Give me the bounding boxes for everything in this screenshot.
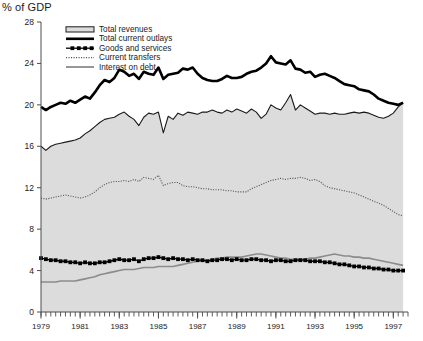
goods-and-services-marker: [191, 257, 195, 261]
goods-and-services-marker: [176, 257, 180, 261]
goods-and-services-marker: [401, 269, 405, 273]
goods-and-services-marker: [108, 259, 112, 263]
goods-and-services-marker: [269, 259, 273, 263]
goods-and-services-marker: [201, 258, 205, 262]
x-tick-label: 1993: [306, 322, 324, 331]
x-tick-label: 1989: [228, 322, 246, 331]
goods-and-services-marker: [303, 258, 307, 262]
goods-and-services-marker: [347, 263, 351, 267]
legend-swatch-total-revenues: [66, 27, 94, 32]
goods-and-services-marker: [328, 260, 332, 264]
goods-and-services-marker: [298, 258, 302, 262]
legend-label: Interest on debt: [99, 63, 157, 72]
goods-and-services-marker: [225, 257, 229, 261]
goods-and-services-marker: [210, 258, 214, 262]
goods-and-services-marker: [342, 262, 346, 266]
goods-and-services-marker: [157, 255, 161, 259]
goods-and-services-marker: [137, 259, 141, 263]
legend-swatch-marker: [77, 46, 81, 50]
x-tick-label: 1995: [345, 322, 363, 331]
y-tick-label: 24: [25, 58, 35, 68]
goods-and-services-marker: [83, 260, 87, 264]
x-tick-label: 1979: [32, 322, 50, 331]
goods-and-services-marker: [103, 260, 107, 264]
y-tick-label: 28: [25, 17, 35, 27]
goods-and-services-marker: [132, 257, 136, 261]
goods-and-services-marker: [396, 269, 400, 273]
chart-canvas: 0481216202428197919811983198519871989199…: [0, 0, 423, 341]
goods-and-services-marker: [220, 257, 224, 261]
legend-swatch-marker: [71, 46, 75, 50]
legend-swatch-marker: [83, 46, 87, 50]
goods-and-services-marker: [323, 260, 327, 264]
goods-and-services-marker: [122, 258, 126, 262]
goods-and-services-marker: [152, 256, 156, 260]
x-tick-label: 1997: [384, 322, 402, 331]
goods-and-services-marker: [245, 258, 249, 262]
goods-and-services-marker: [338, 262, 342, 266]
goods-and-services-marker: [98, 260, 102, 264]
goods-and-services-marker: [352, 265, 356, 269]
legend-label: Total current outlays: [99, 34, 172, 43]
goods-and-services-marker: [113, 258, 117, 262]
x-tick-label: 1991: [267, 322, 285, 331]
goods-and-services-marker: [240, 258, 244, 262]
goods-and-services-marker: [289, 259, 293, 263]
goods-and-services-marker: [205, 259, 209, 263]
goods-and-services-marker: [88, 261, 92, 265]
goods-and-services-marker: [318, 259, 322, 263]
goods-and-services-marker: [294, 258, 298, 262]
goods-and-services-marker: [64, 259, 68, 263]
goods-and-services-marker: [78, 261, 82, 265]
goods-and-services-marker: [117, 257, 121, 261]
goods-and-services-marker: [284, 259, 288, 263]
goods-and-services-marker: [161, 256, 165, 260]
goods-and-services-marker: [279, 258, 283, 262]
goods-and-services-marker: [250, 257, 254, 261]
goods-and-services-marker: [171, 256, 175, 260]
x-tick-label: 1987: [189, 322, 207, 331]
goods-and-services-marker: [215, 258, 219, 262]
goods-and-services-marker: [387, 268, 391, 272]
goods-and-services-marker: [372, 267, 376, 271]
goods-and-services-marker: [254, 257, 258, 261]
goods-and-services-marker: [274, 258, 278, 262]
goods-and-services-marker: [166, 257, 170, 261]
goods-and-services-marker: [391, 269, 395, 273]
goods-and-services-marker: [181, 257, 185, 261]
goods-and-services-marker: [73, 260, 77, 264]
y-tick-label: 8: [29, 224, 34, 234]
legend-swatch-marker: [90, 46, 94, 50]
goods-and-services-marker: [147, 256, 151, 260]
goods-and-services-marker: [264, 258, 268, 262]
goods-and-services-marker: [377, 267, 381, 271]
y-axis-title: % of GDP: [2, 1, 52, 13]
goods-and-services-marker: [44, 257, 48, 261]
goods-and-services-marker: [362, 266, 366, 270]
y-tick-label: 0: [29, 307, 34, 317]
goods-and-services-marker: [308, 259, 312, 263]
y-tick-label: 12: [25, 183, 35, 193]
goods-and-services-marker: [235, 257, 239, 261]
goods-and-services-marker: [54, 258, 58, 262]
x-tick-label: 1983: [110, 322, 128, 331]
goods-and-services-marker: [186, 258, 190, 262]
goods-and-services-marker: [59, 259, 63, 263]
goods-and-services-marker: [49, 258, 53, 262]
legend-label: Total revenues: [99, 25, 152, 34]
y-tick-label: 16: [25, 141, 35, 151]
goods-and-services-marker: [142, 257, 146, 261]
x-tick-label: 1985: [150, 322, 168, 331]
revenues-area-fill: [41, 95, 403, 313]
goods-and-services-marker: [357, 265, 361, 269]
goods-and-services-marker: [313, 259, 317, 263]
legend-label: Current transfers: [99, 53, 160, 62]
chart-figure: % of GDP 0481216202428197919811983198519…: [0, 0, 423, 341]
goods-and-services-marker: [382, 268, 386, 272]
y-tick-label: 4: [29, 266, 34, 276]
y-tick-label: 20: [25, 100, 35, 110]
legend-label: Goods and services: [99, 44, 171, 53]
goods-and-services-marker: [367, 266, 371, 270]
goods-and-services-marker: [68, 260, 72, 264]
goods-and-services-marker: [259, 258, 263, 262]
